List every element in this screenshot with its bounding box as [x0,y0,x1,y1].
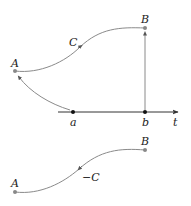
top-diagram: a b t C A B [10,13,178,129]
curve-minus-c-direction-arrow-icon [79,166,82,169]
point-A-label: A [10,57,19,70]
diagram-canvas: a b t C A B −C A B [0,0,191,206]
tick-a-label: a [70,116,77,129]
tick-a-point [71,110,75,114]
tick-b-label: b [142,116,149,129]
tick-b-point [143,110,147,114]
mapping-arrow-a-to-A [19,77,70,110]
point-B-label: B [140,13,149,26]
point-B-bottom [143,148,147,152]
point-A-bottom-label: A [10,177,19,190]
point-B-bottom-label: B [140,135,149,148]
t-axis-label: t [173,116,178,129]
bottom-diagram: −C A B [10,135,149,194]
curve-c-label: C [69,36,78,49]
curve-minus-c-label: −C [82,171,100,184]
point-A-bottom [13,190,17,194]
point-B [143,26,147,30]
curve-c [15,28,145,72]
curve-minus-c [15,149,145,192]
